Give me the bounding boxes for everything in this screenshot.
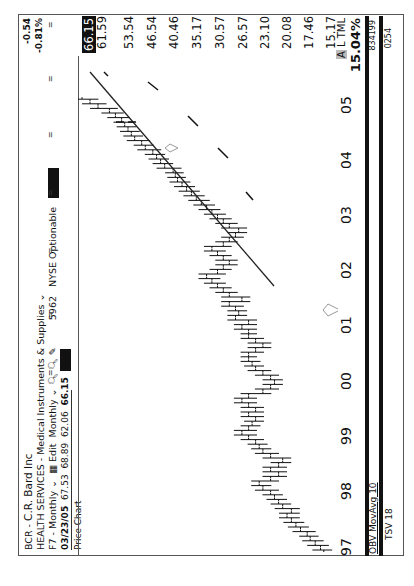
tsv-value: 0254: [384, 28, 393, 48]
sector-line[interactable]: HEALTH SERVICES - Medical Instruments & …: [35, 168, 47, 550]
price-label: 35.17: [190, 16, 204, 49]
time-label: 05: [338, 96, 354, 114]
price-plot: [78, 66, 338, 556]
symbol[interactable]: BCR: [23, 530, 34, 550]
obv-strip: [365, 16, 369, 556]
separator-mark: =: [46, 75, 55, 82]
edit-icon: ▦: [47, 465, 58, 474]
separator-mark: =: [46, 311, 55, 318]
obv-value: 834199: [368, 20, 377, 51]
quote-line: 03/23/05 67.53 68.89 62.06 66.15: [59, 168, 71, 550]
badge-letter: A: [336, 50, 347, 59]
change-pct: -0.81%: [34, 18, 44, 53]
separator-mark: =: [46, 131, 55, 138]
price-label: 46.54: [145, 16, 159, 49]
chart-panel: BCR - C.R. Bard Inc HEALTH SERVICES - Me…: [18, 14, 404, 556]
obv-label[interactable]: OBV MovAvg 10: [368, 482, 378, 554]
toolbar-line: F7 - Monthly ⌄ ▦ Edit Monthly ⌄ 🔍︎ 🔍︎ ✎ …: [47, 168, 59, 550]
time-label: 00: [338, 372, 354, 390]
quote-date: 03/23/05: [60, 506, 70, 550]
price-label: 30.57: [213, 16, 227, 49]
time-label: 01: [338, 316, 354, 334]
price-label: 20.08: [280, 16, 294, 49]
time-label: 02: [338, 261, 354, 279]
separator-mark: =: [46, 21, 55, 28]
separator-mark: =: [46, 247, 55, 254]
price-label: 40.46: [167, 16, 181, 49]
industry: Medical Instruments & Supplies: [35, 305, 46, 455]
time-label: 97: [338, 538, 354, 556]
price-label: 26.57: [236, 16, 250, 49]
price-label: 53.54: [122, 16, 136, 49]
quote-close: 66.15: [60, 377, 70, 405]
trendline[interactable]: [90, 72, 274, 286]
badge-label: L TML: [336, 18, 347, 47]
chevron-down-icon: ⌄: [35, 294, 46, 302]
tml-badge: A L TML: [336, 18, 347, 59]
chevron-down-icon: ⌄: [47, 388, 58, 396]
price-label: 23.10: [258, 16, 272, 49]
edit-button[interactable]: Edit: [47, 444, 58, 462]
time-label: 98: [338, 482, 354, 500]
price-label: 61.59: [95, 16, 109, 49]
tsv-strip: [379, 16, 383, 556]
pen-icon[interactable]: ✎: [47, 347, 58, 355]
chart-header: BCR - C.R. Bard Inc HEALTH SERVICES - Me…: [22, 168, 84, 550]
annotation-flag[interactable]: [323, 304, 338, 316]
time-label: 04: [338, 151, 354, 169]
company-name: C.R. Bard Inc: [22, 453, 34, 521]
time-label: 99: [338, 427, 354, 445]
separator-mark: =: [46, 369, 55, 376]
annotation-flag[interactable]: [165, 144, 178, 152]
tsv-label[interactable]: TSV 18: [384, 508, 394, 540]
redacted-block: [60, 349, 71, 371]
quote-high: 68.89: [60, 443, 70, 469]
period-menu[interactable]: F7 - Monthly: [47, 491, 58, 550]
price-label: 17.46: [302, 16, 316, 49]
change-abs: -0.54: [22, 18, 32, 44]
separator-mark: =: [46, 189, 55, 196]
sector: HEALTH SERVICES: [35, 464, 46, 550]
interval-select[interactable]: Monthly: [47, 399, 58, 437]
chevron-down-icon: ⌄: [47, 480, 58, 488]
time-label: 03: [338, 206, 354, 224]
quote-low: 62.06: [60, 411, 70, 437]
price-label-current: 66.15: [82, 16, 96, 53]
symbol-line: BCR - C.R. Bard Inc: [22, 168, 35, 550]
quote-open: 67.53: [60, 474, 70, 500]
tml-value: 15.04%: [348, 18, 363, 72]
